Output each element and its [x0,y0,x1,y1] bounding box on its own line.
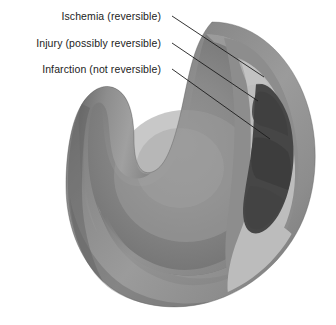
callout-label-infarction: Infarction (not reversible) [42,63,161,75]
cavity-highlight-core [136,128,224,208]
figure-canvas: Ischemia (reversible) Injury (possibly r… [0,0,336,325]
callout-label-ischemia: Ischemia (reversible) [61,10,161,22]
callout-label-injury: Injury (possibly reversible) [36,37,161,49]
